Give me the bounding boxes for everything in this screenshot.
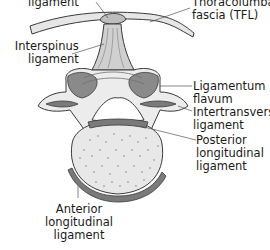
label-intertransverse-ligament: Intertransverse ligament	[193, 106, 270, 132]
label-thoracolumbar-fascia: Thoracolumbar fascia (TFL)	[192, 0, 270, 22]
label-anterior-longitudinal-ligament: Anterior longitudinal ligament	[44, 203, 114, 242]
label-posterior-longitudinal-ligament: Posterior longitudinal ligament	[196, 134, 264, 173]
vertebral-body	[71, 120, 162, 194]
label-interspinus-ligament: Interspinus ligament	[14, 40, 79, 66]
label-ligamentum-flavum: Ligamentum flavum	[193, 80, 266, 106]
supraspinous-ligament-shape	[100, 13, 126, 24]
label-supraspinous-ligament: ligament	[28, 0, 79, 9]
